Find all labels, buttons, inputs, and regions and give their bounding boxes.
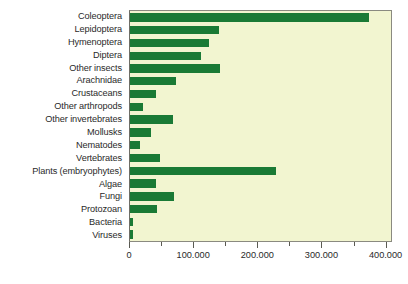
plot-area	[129, 10, 392, 242]
category-label: Algae	[0, 178, 126, 191]
category-label: Viruses	[0, 229, 126, 242]
bar-row	[130, 75, 391, 88]
bar-row	[130, 177, 391, 190]
x-tick-label: 400.000	[369, 250, 402, 260]
bar	[130, 77, 176, 85]
bar	[130, 13, 369, 21]
bar-row	[130, 164, 391, 177]
bar-chart: ColeopteraLepidopteraHymenopteraDipteraO…	[0, 0, 408, 284]
category-label: Bacteria	[0, 216, 126, 229]
category-label: Mollusks	[0, 126, 126, 139]
bar	[130, 141, 140, 149]
category-label: Other insects	[0, 62, 126, 75]
bar-row	[130, 37, 391, 50]
category-label: Plants (embryophytes)	[0, 165, 126, 178]
category-label: Protozoan	[0, 203, 126, 216]
bar	[130, 26, 219, 34]
bar	[130, 192, 174, 200]
category-label: Arachnidae	[0, 74, 126, 87]
bar-row	[130, 62, 391, 75]
bar	[130, 103, 143, 111]
category-label: Coleoptera	[0, 10, 126, 23]
category-label: Other arthropods	[0, 100, 126, 113]
bar-row	[130, 228, 391, 241]
category-label: Nematodes	[0, 139, 126, 152]
bar	[130, 64, 220, 72]
bar-row	[130, 139, 391, 152]
bar-row	[130, 88, 391, 101]
category-label: Crustaceans	[0, 87, 126, 100]
x-tick-minor	[225, 242, 226, 246]
bar	[130, 179, 156, 187]
category-label: Fungi	[0, 190, 126, 203]
bar	[130, 39, 209, 47]
x-tick-minor	[289, 242, 290, 246]
bar-row	[130, 203, 391, 216]
bar	[130, 167, 276, 175]
bar	[130, 230, 133, 238]
bar-row	[130, 24, 391, 37]
x-tick-label: 200.000	[241, 250, 274, 260]
x-tick-label: 300.000	[305, 250, 338, 260]
x-tick-major	[257, 242, 258, 248]
x-tick-major	[321, 242, 322, 248]
category-axis-labels: ColeopteraLepidopteraHymenopteraDipteraO…	[0, 10, 126, 242]
x-tick-major	[129, 242, 130, 248]
bar	[130, 218, 133, 226]
bar-row	[130, 152, 391, 165]
bar-row	[130, 113, 391, 126]
bar	[130, 154, 160, 162]
category-label: Diptera	[0, 49, 126, 62]
bar-row	[130, 100, 391, 113]
bar	[130, 205, 157, 213]
bar	[130, 115, 173, 123]
category-label: Lepidoptera	[0, 23, 126, 36]
x-tick-label: 100.000	[177, 250, 210, 260]
x-axis: 0100.000200.000300.000400.000	[129, 242, 392, 284]
bar	[130, 52, 201, 60]
bar-row	[130, 126, 391, 139]
bar-row	[130, 216, 391, 229]
x-tick-label: 0	[126, 250, 131, 260]
bar-row	[130, 49, 391, 62]
x-tick-minor	[161, 242, 162, 246]
bar-row	[130, 190, 391, 203]
bar-row	[130, 11, 391, 24]
bars-layer	[130, 11, 391, 241]
bar	[130, 128, 151, 136]
bar	[130, 90, 156, 98]
x-tick-minor	[354, 242, 355, 246]
x-tick-major	[193, 242, 194, 248]
category-label: Other invertebrates	[0, 113, 126, 126]
x-tick-major	[386, 242, 387, 248]
category-label: Hymenoptera	[0, 36, 126, 49]
category-label: Vertebrates	[0, 152, 126, 165]
